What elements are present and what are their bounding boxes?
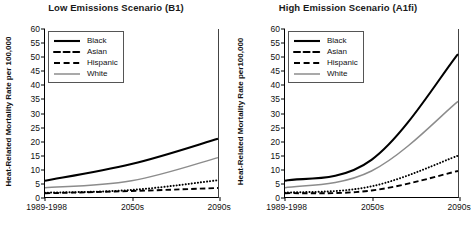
y-tick-mark xyxy=(41,43,45,44)
y-tick-label: 10 xyxy=(31,165,40,175)
legend-label: Hispanic xyxy=(327,58,358,67)
y-tick-mark xyxy=(41,71,45,72)
y-tick-label: 55 xyxy=(271,38,280,48)
y-axis-label: Heat-Related Mortality Rate per100,000 xyxy=(234,24,246,199)
y-tick-mark xyxy=(281,141,285,142)
series-line-asian xyxy=(285,156,458,193)
legend-label: Hispanic xyxy=(87,58,118,67)
legend-swatch-white-icon xyxy=(293,69,321,79)
y-tick-label: 45 xyxy=(31,66,40,76)
legend-label: Black xyxy=(87,36,107,45)
y-tick-label: 30 xyxy=(31,109,40,119)
legend-label: White xyxy=(327,69,347,78)
y-tick-mark xyxy=(41,169,45,170)
x-tick-label: 2050s xyxy=(361,202,384,212)
legend-item-asian: Asian xyxy=(293,46,358,57)
y-tick-label: 40 xyxy=(271,80,280,90)
x-tick-label: 2050s xyxy=(121,202,144,212)
legend-swatch-black-icon xyxy=(53,36,81,46)
y-tick-label: 5 xyxy=(35,179,40,189)
legend-item-hispanic: Hispanic xyxy=(293,57,358,68)
y-tick-label: 60 xyxy=(271,24,280,34)
y-tick-mark xyxy=(281,29,285,30)
y-tick-label: 50 xyxy=(271,52,280,62)
legend-label: White xyxy=(87,69,107,78)
y-tick-mark xyxy=(41,29,45,30)
plot-area-wrapper: 0510152025303540455055601989-19982050s20… xyxy=(44,29,219,198)
y-tick-label: 50 xyxy=(31,52,40,62)
legend-item-asian: Asian xyxy=(53,46,118,57)
y-tick-label: 20 xyxy=(271,137,280,147)
x-tick-label: 2090s xyxy=(207,202,230,212)
y-tick-mark xyxy=(281,183,285,184)
y-tick-mark xyxy=(41,57,45,58)
y-tick-label: 15 xyxy=(271,151,280,161)
legend-item-white: White xyxy=(293,68,358,79)
x-tick-label: 1989-1998 xyxy=(266,202,307,212)
y-tick-mark xyxy=(281,155,285,156)
panel-low-emissions: Low Emissions Scenario (B1) Heat-Related… xyxy=(0,0,232,229)
y-tick-mark xyxy=(281,169,285,170)
y-tick-mark xyxy=(281,57,285,58)
x-tick-mark xyxy=(372,197,373,201)
series-line-black xyxy=(45,139,218,181)
y-tick-mark xyxy=(281,71,285,72)
legend: BlackAsianHispanicWhite xyxy=(48,31,124,83)
x-tick-label: 2090s xyxy=(447,202,470,212)
legend-label: Asian xyxy=(87,47,107,56)
y-tick-mark xyxy=(41,99,45,100)
y-tick-mark xyxy=(281,113,285,114)
x-tick-mark xyxy=(285,197,286,201)
y-tick-mark xyxy=(41,141,45,142)
legend-item-black: Black xyxy=(293,35,358,46)
legend-item-hispanic: Hispanic xyxy=(53,57,118,68)
y-tick-mark xyxy=(41,113,45,114)
y-tick-mark xyxy=(41,127,45,128)
series-line-white xyxy=(285,101,458,187)
legend-swatch-asian-icon xyxy=(293,47,321,57)
legend-label: Asian xyxy=(327,47,347,56)
y-axis-label: Heat-Related Mortality Rate per 100,000 xyxy=(2,24,14,199)
legend-label: Black xyxy=(327,36,347,45)
legend-swatch-hispanic-icon xyxy=(53,58,81,68)
legend-swatch-white-icon xyxy=(53,69,81,79)
x-tick-mark xyxy=(220,197,221,201)
y-tick-mark xyxy=(41,85,45,86)
y-tick-label: 25 xyxy=(31,123,40,133)
legend-item-black: Black xyxy=(53,35,118,46)
x-tick-mark xyxy=(45,197,46,201)
series-line-hispanic xyxy=(285,171,458,193)
legend-item-white: White xyxy=(53,68,118,79)
legend-swatch-black-icon xyxy=(293,36,321,46)
y-tick-label: 20 xyxy=(31,137,40,147)
y-tick-mark xyxy=(281,43,285,44)
x-tick-mark xyxy=(132,197,133,201)
y-tick-mark xyxy=(281,85,285,86)
y-tick-mark xyxy=(41,183,45,184)
legend-swatch-hispanic-icon xyxy=(293,58,321,68)
legend: BlackAsianHispanicWhite xyxy=(288,31,364,83)
y-tick-label: 55 xyxy=(31,38,40,48)
plot-area-wrapper: 0510152025303540455055601989-19982050s20… xyxy=(284,29,459,198)
y-tick-label: 45 xyxy=(271,66,280,76)
y-tick-label: 10 xyxy=(271,165,280,175)
y-tick-label: 25 xyxy=(271,123,280,133)
x-tick-mark xyxy=(460,197,461,201)
y-tick-label: 30 xyxy=(271,109,280,119)
y-tick-mark xyxy=(281,127,285,128)
x-tick-label: 1989-1998 xyxy=(26,202,67,212)
panel-title: Low Emissions Scenario (B1) xyxy=(0,2,232,13)
y-tick-label: 40 xyxy=(31,80,40,90)
series-line-hispanic xyxy=(45,188,218,193)
legend-swatch-asian-icon xyxy=(53,47,81,57)
y-tick-mark xyxy=(281,99,285,100)
y-tick-label: 60 xyxy=(31,24,40,34)
y-tick-label: 35 xyxy=(271,94,280,104)
y-tick-mark xyxy=(41,155,45,156)
y-tick-label: 5 xyxy=(275,179,280,189)
y-tick-label: 35 xyxy=(31,94,40,104)
panel-high-emission: High Emission Scenario (A1fi) Heat-Relat… xyxy=(232,0,464,229)
y-tick-label: 15 xyxy=(31,151,40,161)
panel-title: High Emission Scenario (A1fi) xyxy=(232,2,464,13)
